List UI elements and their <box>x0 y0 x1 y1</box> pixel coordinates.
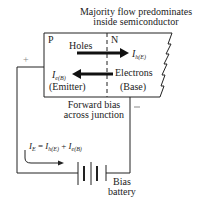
holes-arrowhead <box>120 48 129 58</box>
emitter-label: (Emitter) <box>49 82 86 92</box>
n-region-label: N <box>111 35 118 45</box>
base-label: (Base) <box>120 82 146 92</box>
electrons-label: Electrons <box>115 68 153 78</box>
broken-edge <box>160 33 172 97</box>
battery-icon <box>78 162 106 185</box>
title-line-2: inside semiconductor <box>66 17 204 27</box>
plus-sign: + <box>23 55 29 65</box>
p-region-label: P <box>48 35 54 45</box>
electrons-arrowhead <box>72 69 81 79</box>
bias-label-line-2: across junction <box>56 110 132 120</box>
holes-label: Holes <box>69 41 92 51</box>
hole-current-label: Ih(E) <box>132 49 146 62</box>
current-flow-arrowhead <box>58 161 64 166</box>
battery-label-line-2: battery <box>104 187 140 197</box>
current-equation: IE = Ih(E) + Ie(B) <box>29 141 82 154</box>
